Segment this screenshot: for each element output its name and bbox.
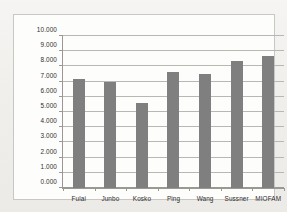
y-axis-label: 9.000 [41,41,58,48]
y-axis-label: 2.000 [41,147,58,154]
bar-group: MIOFAM [252,36,284,188]
bar-group: Kosko [126,36,158,188]
plot-area: 0.0001.0002.0003.0004.0005.0006.0007.000… [62,36,284,189]
bar [104,82,116,188]
bar [73,79,85,188]
y-axis-label: 3.000 [41,132,58,139]
y-axis-label: 5.000 [41,102,58,109]
y-axis-label: 0.000 [41,178,58,185]
y-axis-label: 8.000 [41,56,58,63]
bar [136,103,148,188]
bar [199,74,211,188]
x-axis-tick [63,188,64,191]
y-axis-label: 4.000 [41,117,58,124]
chart-frame: 0.0001.0002.0003.0004.0005.0006.0007.000… [13,14,275,200]
x-axis-tick [252,188,253,191]
x-axis-label: Wang [197,195,214,202]
x-axis-tick [126,188,127,191]
x-axis-tick [189,188,190,191]
bar [231,61,243,188]
x-axis-label: Fulai [72,195,86,202]
bar-group: Fulai [63,36,95,188]
x-axis-tick [221,188,222,191]
x-axis-tick [158,188,159,191]
x-axis-label: MIOFAM [255,195,281,202]
x-axis-tick [284,188,285,191]
page-background: 0.0001.0002.0003.0004.0005.0006.0007.000… [0,0,287,212]
bar-series: FulaiJunboKoskoPingWangSussnerMIOFAM [63,36,284,188]
x-axis-label: Sussner [225,195,249,202]
x-axis-label: Ping [167,195,180,202]
y-axis-label: 7.000 [41,71,58,78]
y-axis-label: 10.000 [37,26,57,33]
bar [167,72,179,188]
bar-group: Junbo [95,36,127,188]
bar-group: Ping [158,36,190,188]
x-axis-label: Junbo [101,195,119,202]
x-axis-label: Kosko [133,195,151,202]
y-axis-label: 6.000 [41,86,58,93]
bar-group: Sussner [221,36,253,188]
y-axis-label: 1.000 [41,162,58,169]
bar-group: Wang [189,36,221,188]
bar [262,56,274,188]
x-axis-tick [95,188,96,191]
